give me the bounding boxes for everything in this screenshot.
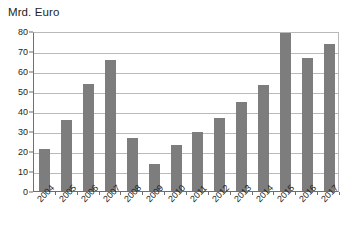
y-axis-tick-label: 40 <box>18 107 28 117</box>
bar <box>105 60 116 191</box>
x-axis-tick-mark <box>186 192 187 195</box>
x-axis-tick-mark <box>99 192 100 195</box>
plot-area <box>33 32 339 192</box>
x-axis-tick-mark <box>339 192 340 195</box>
bar <box>192 132 203 191</box>
bars-layer <box>34 33 338 191</box>
bar <box>302 58 313 191</box>
y-axis-tick-label: 70 <box>18 47 28 57</box>
y-axis: 01020304050607080 <box>0 24 33 204</box>
x-axis-tick-mark <box>273 192 274 195</box>
x-axis-tick-mark <box>252 192 253 195</box>
x-axis-tick-mark <box>55 192 56 195</box>
y-axis-tick-label: 10 <box>18 167 28 177</box>
bar <box>280 33 291 191</box>
bar <box>83 84 94 191</box>
bar-chart: Mrd. Euro 01020304050607080 200420052006… <box>0 0 347 227</box>
bar <box>61 120 72 191</box>
y-axis-tick-label: 80 <box>18 27 28 37</box>
x-axis-tick-mark <box>208 192 209 195</box>
x-axis-tick-mark <box>142 192 143 195</box>
x-axis-tick-mark <box>164 192 165 195</box>
y-axis-tick-label: 0 <box>23 187 28 197</box>
x-axis-tick-mark <box>317 192 318 195</box>
y-axis-tick-label: 50 <box>18 87 28 97</box>
chart-title: Mrd. Euro <box>8 6 59 18</box>
bar <box>236 102 247 191</box>
x-axis-tick-mark <box>120 192 121 195</box>
x-axis-tick-mark <box>230 192 231 195</box>
y-axis-tick-label: 30 <box>18 127 28 137</box>
x-axis: 2004200520062007200820092010201120122013… <box>33 192 339 227</box>
y-axis-tick-label: 20 <box>18 147 28 157</box>
bar <box>324 44 335 191</box>
x-axis-tick-mark <box>295 192 296 195</box>
bar <box>214 118 225 191</box>
bar <box>258 85 269 191</box>
y-axis-tick-label: 60 <box>18 67 28 77</box>
x-axis-tick-mark <box>77 192 78 195</box>
